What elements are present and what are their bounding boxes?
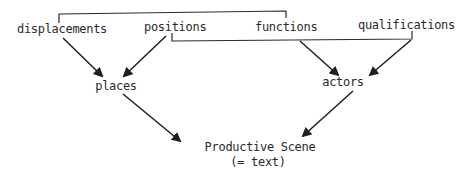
node-functions: functions	[255, 20, 317, 34]
arrow-displacements-to-places	[63, 38, 102, 76]
node-actors: actors	[322, 75, 364, 89]
node-qualifications: qualifications	[358, 18, 455, 32]
node-places: places	[95, 79, 137, 93]
node-positions: positions	[144, 20, 206, 34]
node-productive-scene: Productive Scene	[205, 140, 316, 154]
arrow-places-to-scene	[123, 94, 180, 141]
node-productive-scene-subtitle: (= text)	[230, 155, 285, 169]
diagram-canvas: displacements positions functions qualif…	[0, 0, 476, 176]
arrow-positions-to-places	[124, 36, 166, 76]
arrow-actors-to-scene	[303, 91, 353, 136]
arrow-qualifications-to-actors	[370, 40, 411, 75]
arrow-functions-to-actors	[300, 41, 338, 75]
node-displacements: displacements	[17, 22, 107, 36]
